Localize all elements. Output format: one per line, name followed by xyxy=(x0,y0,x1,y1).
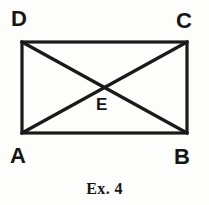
geometry-figure: D C A B E Ex. 4 xyxy=(0,0,209,205)
vertex-label-d: D xyxy=(11,8,27,30)
vertex-label-a: A xyxy=(10,145,26,167)
vertex-label-c: C xyxy=(176,10,192,32)
figure-caption: Ex. 4 xyxy=(0,180,209,198)
vertex-label-b: B xyxy=(174,146,190,168)
intersection-label-e: E xyxy=(96,96,107,113)
